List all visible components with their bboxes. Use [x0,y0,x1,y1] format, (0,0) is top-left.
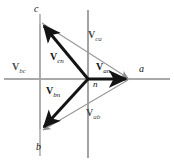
phase-vector-subscript-V-cn: cn [57,57,64,65]
phasor-diagram: c a b n Van Vcn Vbn Vca Vab Vbc [0,0,174,165]
phase-vector-subscript-V-bn: bn [53,91,60,99]
line-vector-subscript-V-ca: ca [95,35,102,43]
line-vector-label-V-ab: Vab [86,108,100,121]
line-vector-subscript-V-ab: ab [93,113,100,121]
node-label-c: c [34,4,38,14]
node-label-n: n [93,80,98,89]
node-label-b: b [36,142,41,152]
phase-vector-label-V-an: Van [96,62,110,75]
node-label-a: a [139,64,144,74]
phase-vector-subscript-V-an: an [103,67,110,75]
phase-vector-label-V-bn: Vbn [46,86,60,99]
phasor-diagram-canvas [0,0,174,165]
phase-vector-label-V-cn: Vcn [50,52,64,65]
line-vector-label-V-ca: Vca [88,30,102,43]
line-vector-label-V-bc: Vbc [12,62,26,75]
line-vector-subscript-V-bc: bc [19,67,26,75]
